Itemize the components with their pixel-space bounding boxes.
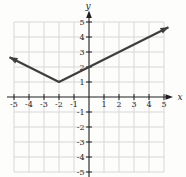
y-tick-label: -1 [77, 108, 85, 117]
x-axis-label: x [177, 92, 182, 102]
y-axis-arrow-icon [86, 11, 92, 19]
graph-panel: -5-4-3-2-11234554321-1-2-3-4-5xy [0, 0, 186, 177]
y-tick-label: 3 [79, 48, 84, 57]
x-tick-label: 1 [101, 100, 106, 109]
x-tick-label: 5 [161, 100, 166, 109]
x-tick-label: -2 [55, 100, 63, 109]
x-tick-label: -3 [40, 100, 48, 109]
y-tick-label: -2 [77, 123, 85, 132]
y-tick-label: -5 [77, 168, 85, 177]
x-axis-arrow-icon [166, 94, 174, 100]
x-tick-label: 3 [131, 100, 136, 109]
y-tick-label: 1 [79, 78, 84, 87]
y-tick-label: -3 [77, 138, 85, 147]
x-tick-label: -4 [25, 100, 33, 109]
y-tick-label: 5 [79, 18, 84, 27]
x-tick-label: 4 [146, 100, 151, 109]
x-tick-label: 2 [116, 100, 121, 109]
absolute-value-graph: -5-4-3-2-11234554321-1-2-3-4-5xy [0, 0, 186, 177]
y-tick-label: 4 [79, 33, 84, 42]
x-tick-label: -5 [10, 100, 18, 109]
y-tick-label: -4 [77, 153, 85, 162]
y-axis-label: y [84, 1, 91, 11]
